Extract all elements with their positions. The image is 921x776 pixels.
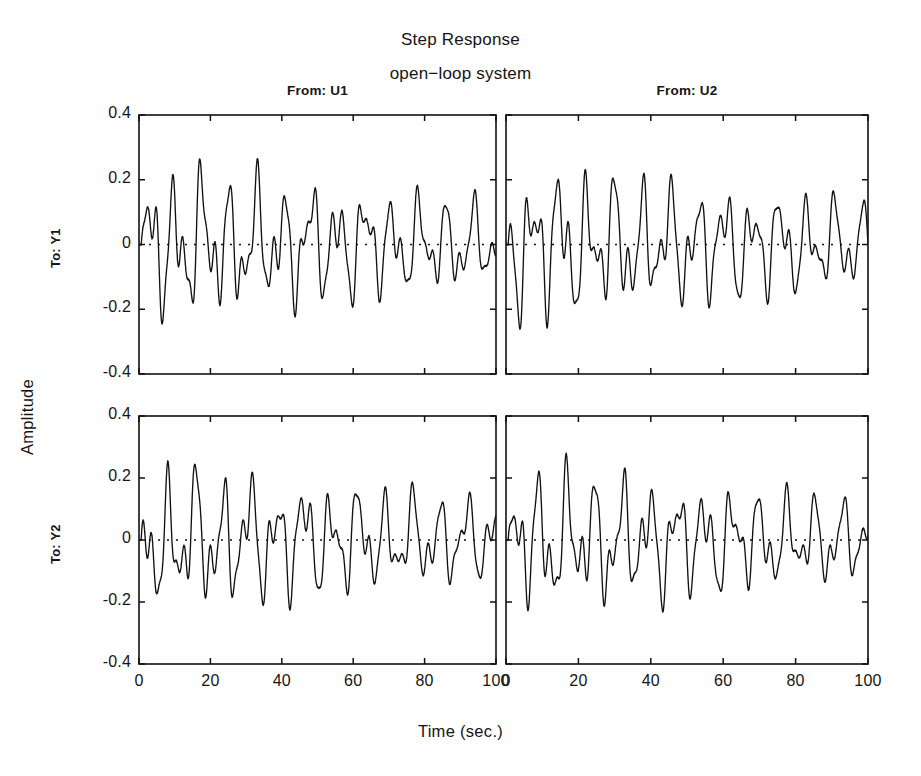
response-curve — [506, 169, 868, 329]
axes-box — [139, 115, 496, 374]
y-tick-label: -0.2 — [69, 298, 131, 316]
step-response-figure: Step Response open−loop system From: U1 … — [0, 0, 921, 776]
x-tick-label: 80 — [766, 672, 826, 690]
y-tick-label: 0.2 — [69, 467, 131, 485]
figure-title: Step Response — [0, 30, 921, 50]
response-curve — [139, 159, 496, 324]
row-label-to-y2: To: Y2 — [48, 524, 63, 564]
y-tick-label: 0 — [69, 529, 131, 547]
y-tick-label: -0.4 — [69, 653, 131, 671]
x-tick-label: 20 — [180, 672, 240, 690]
column-header-from-u1: From: U1 — [139, 83, 496, 98]
subplot-u2-y1 — [506, 115, 868, 374]
y-tick-label: 0 — [69, 234, 131, 252]
axes-box — [139, 416, 496, 664]
x-tick-label: 0 — [476, 672, 536, 690]
subplot-u2-y2 — [506, 416, 868, 664]
x-tick-label: 40 — [252, 672, 312, 690]
y-tick-label: 0.2 — [69, 169, 131, 187]
x-tick-label: 80 — [395, 672, 455, 690]
column-header-from-u2: From: U2 — [506, 83, 868, 98]
y-tick-label: 0.4 — [69, 405, 131, 423]
x-tick-label: 0 — [109, 672, 169, 690]
x-tick-label: 60 — [693, 672, 753, 690]
row-label-to-y1: To: Y1 — [48, 228, 63, 268]
y-tick-label: 0.4 — [69, 104, 131, 122]
figure-subtitle: open−loop system — [0, 64, 921, 84]
x-tick-label: 20 — [548, 672, 608, 690]
response-curve — [139, 461, 496, 610]
subplot-u1-y2 — [139, 416, 496, 664]
y-tick-label: -0.4 — [69, 363, 131, 381]
y-tick-label: -0.2 — [69, 591, 131, 609]
x-tick-label: 60 — [323, 672, 383, 690]
response-curve — [506, 453, 868, 612]
subplot-u1-y1 — [139, 115, 496, 374]
plot-canvas — [0, 0, 921, 776]
x-tick-label: 40 — [621, 672, 681, 690]
x-tick-label: 100 — [838, 672, 898, 690]
y-axis-label: Amplitude — [18, 379, 37, 455]
x-axis-label: Time (sec.) — [0, 722, 921, 741]
